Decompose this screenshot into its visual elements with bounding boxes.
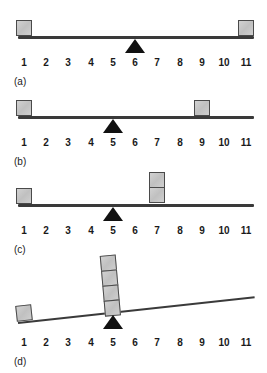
tick-label: 1: [14, 136, 34, 150]
fulcrum-b: [103, 119, 123, 133]
weight-block: [149, 172, 165, 188]
tick-label: 1: [14, 336, 34, 350]
beam-d: [18, 296, 255, 324]
fulcrum-c: [103, 207, 123, 221]
tick-label: 6: [125, 136, 145, 150]
tick-label: 4: [81, 336, 101, 350]
tick-label: 9: [192, 224, 212, 238]
weight-stack: [149, 173, 165, 203]
tick-label: 7: [147, 136, 167, 150]
tick-label: 8: [170, 224, 190, 238]
tick-label: 5: [103, 224, 123, 238]
tick-label: 4: [81, 224, 101, 238]
tick-label: 2: [36, 136, 56, 150]
tick-label: 3: [58, 136, 78, 150]
tick-label: 8: [170, 136, 190, 150]
tick-label: 5: [103, 336, 123, 350]
weight-block: [15, 304, 33, 322]
panel-label-d: (d): [14, 356, 26, 368]
tick-label: 8: [170, 336, 190, 350]
tick-label: 9: [192, 136, 212, 150]
tick-label: 5: [103, 136, 123, 150]
tick-label: 6: [125, 336, 145, 350]
tick-label: 7: [147, 224, 167, 238]
axis-ticks-b: 1 2 3 4 5 6 7 8 9 10 11: [0, 136, 267, 150]
fulcrum-d: [103, 315, 123, 329]
panel-label-c: (c): [14, 244, 26, 256]
panel-label-b: (b): [14, 156, 26, 168]
tick-label: 2: [36, 224, 56, 238]
axis-ticks-c: 1 2 3 4 5 6 7 8 9 10 11: [0, 224, 267, 238]
weight-block: [16, 188, 32, 204]
tick-label: 9: [192, 336, 212, 350]
weight-stack: [100, 256, 121, 317]
tick-label: 11: [236, 224, 256, 238]
tick-label: 1: [14, 224, 34, 238]
weight-block: [149, 187, 165, 203]
tick-label: 10: [214, 336, 234, 350]
balance-beam-figure: 1 2 3 4 5 6 7 8 9 10 11 (a) 1 2 3 4 5 6 …: [0, 0, 267, 373]
tick-label: 7: [147, 336, 167, 350]
panel-d: 1 2 3 4 5 6 7 8 9 10 11 (d): [0, 0, 267, 118]
tick-label: 3: [58, 336, 78, 350]
tick-label: 11: [236, 136, 256, 150]
tick-label: 4: [81, 136, 101, 150]
tick-label: 3: [58, 224, 78, 238]
axis-ticks-d: 1 2 3 4 5 6 7 8 9 10 11: [0, 336, 267, 350]
tick-label: 6: [125, 224, 145, 238]
beam-c: [18, 204, 254, 207]
tick-label: 10: [214, 224, 234, 238]
tick-label: 11: [236, 336, 256, 350]
tick-label: 2: [36, 336, 56, 350]
tick-label: 10: [214, 136, 234, 150]
